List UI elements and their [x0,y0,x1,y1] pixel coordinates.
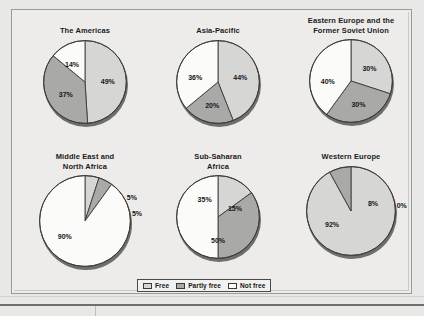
pie-slice-label: 0% [397,202,407,209]
pie-slice-label: 36% [188,74,202,81]
pie-graphic: 30%30%40% [309,39,393,127]
pie-chart-cell: Eastern Europe and the Former Soviet Uni… [288,16,414,146]
pie-graphic: 5%5%90% [39,175,131,271]
pie-slice-label: 49% [101,77,115,84]
pie-slices [306,166,396,256]
legend-item[interactable]: Free [143,282,169,289]
legend-swatch-not-free [228,283,237,289]
pie-graphic: 15%35%50% [176,175,260,263]
pie-chart-cell: The Americas49%37%14% [22,26,148,146]
chart-legend: FreePartly freeNot free [137,279,271,292]
pie-slice-label: 8% [368,200,378,207]
pie-slices [176,40,260,124]
pie-chart-cell: Sub-Saharan Africa15%35%50% [155,152,281,278]
pie-slice-label: 30% [362,64,376,71]
pie-chart-title: Sub-Saharan Africa [155,152,281,171]
pie-slice-label: 40% [321,78,335,85]
legend-swatch-partly-free [176,283,185,289]
pie-chart-cell: Western Europe92%8%0% [288,152,414,278]
pie-graphic: 44%20%36% [176,40,260,128]
legend-item[interactable]: Not free [228,282,265,289]
page-rule-light [0,296,424,297]
pie-slices [39,175,131,267]
pie-graphic: 92%8%0% [306,166,396,260]
pie-chart-title: The Americas [22,26,148,36]
figure-root: The Americas49%37%14%Asia-Pacific44%20%3… [0,0,424,316]
pie-slice-label: 35% [198,195,212,202]
pie-slice-label: 44% [233,74,247,81]
page-edge-tick [95,306,96,316]
pie-chart-title: Western Europe [288,152,414,162]
pie-graphic: 49%37%14% [43,40,127,128]
legend-label: Free [155,282,169,289]
legend-swatch-free [143,283,152,289]
pie-slice-label: 14% [65,61,79,68]
pie-chart-cell: Asia-Pacific44%20%36% [155,26,281,146]
pie-slice-label: 92% [325,220,339,227]
pie-slice-label: 30% [351,100,365,107]
pie-slice-label: 50% [211,237,225,244]
pie-slice-label: 5% [132,209,142,216]
pie-chart-title: Eastern Europe and the Former Soviet Uni… [288,16,414,35]
legend-label: Not free [240,282,265,289]
pie-slice-label: 15% [228,205,242,212]
legend-item[interactable]: Partly free [176,282,221,289]
pie-slice-label: 90% [58,232,72,239]
pie-slices [176,175,260,259]
pie-slice-label: 20% [205,101,219,108]
pie-chart-cell: Middle East and North Africa5%5%90% [22,152,148,278]
pie-slice [177,176,218,259]
pie-slice-label: 37% [59,91,73,98]
pie-slice-label: 5% [127,194,137,201]
pie-chart-title: Middle East and North Africa [22,152,148,171]
page-rule-dark [0,304,424,306]
legend-label: Partly free [188,282,221,289]
pie-chart-title: Asia-Pacific [155,26,281,36]
